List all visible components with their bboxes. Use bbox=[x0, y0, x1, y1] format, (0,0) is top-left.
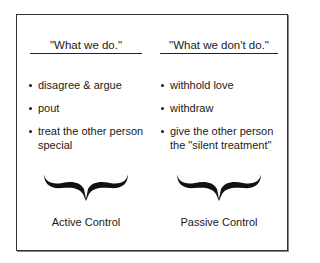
column-header-active: "What we do." bbox=[30, 39, 142, 51]
column-divider-passive bbox=[160, 53, 278, 54]
list-passive: withhold love withdraw give the other pe… bbox=[161, 78, 281, 161]
caption-passive-control: Passive Control bbox=[160, 216, 278, 228]
curly-brace-icon bbox=[175, 172, 263, 202]
list-item: withdraw bbox=[161, 101, 281, 115]
column-divider-active bbox=[30, 53, 142, 54]
caption-active-control: Active Control bbox=[30, 216, 142, 228]
list-item: treat the other person special bbox=[29, 124, 147, 152]
curly-brace-icon bbox=[42, 172, 130, 202]
list-item: disagree & argue bbox=[29, 78, 147, 92]
list-item: pout bbox=[29, 101, 147, 115]
column-header-passive: "What we don't do." bbox=[160, 39, 278, 51]
list-item: withhold love bbox=[161, 78, 281, 92]
list-item: give the other person the "silent treatm… bbox=[161, 124, 281, 152]
list-active: disagree & argue pout treat the other pe… bbox=[29, 78, 147, 161]
